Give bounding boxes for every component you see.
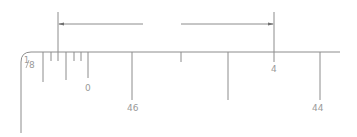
tick-label-4: 4 bbox=[271, 64, 277, 74]
tick-label-46: 46 bbox=[127, 103, 139, 113]
arrow-right-icon bbox=[268, 23, 274, 26]
tick-label-44: 44 bbox=[312, 103, 324, 113]
arrow-left-icon bbox=[58, 23, 64, 26]
tick-label-0: 0 bbox=[85, 83, 91, 93]
corner-fraction-denominator: 8 bbox=[29, 60, 35, 70]
ruler-drawing: 1 8 0 46 4 44 bbox=[0, 0, 357, 137]
ruler-outline bbox=[21, 52, 340, 133]
